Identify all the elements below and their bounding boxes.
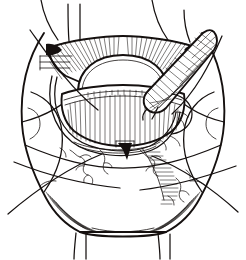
surgical-illustration-figure — [0, 0, 246, 260]
illustration-canvas — [0, 0, 246, 260]
